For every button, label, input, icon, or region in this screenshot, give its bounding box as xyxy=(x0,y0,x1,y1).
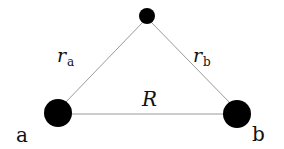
label-b: b xyxy=(252,124,265,144)
label-R: R xyxy=(142,89,157,109)
label-r-a-main: r xyxy=(57,44,66,66)
label-r-b: rb xyxy=(193,46,211,65)
label-a: a xyxy=(16,125,28,145)
edge-a-top xyxy=(64,22,143,104)
diagram-graphics xyxy=(0,0,284,149)
edge-top-b xyxy=(151,22,231,104)
label-r-a: ra xyxy=(57,46,74,65)
label-r-a-sub: a xyxy=(67,55,74,69)
triangle-diagram: ra rb R a b xyxy=(0,0,284,149)
node-a xyxy=(44,99,72,127)
node-top xyxy=(139,8,155,24)
node-b xyxy=(223,100,251,128)
label-r-b-sub: b xyxy=(203,55,211,69)
label-r-b-main: r xyxy=(193,44,202,66)
